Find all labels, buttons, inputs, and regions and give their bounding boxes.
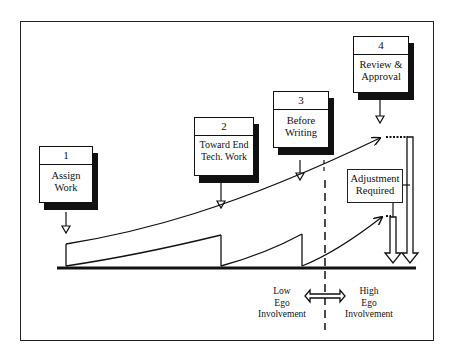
stage-3-label-line1: Before <box>287 115 316 126</box>
stage-4-number: 4 <box>354 37 408 55</box>
stage-2-label-line1: Toward End <box>199 139 248 150</box>
stage-1-label-line1: Assign <box>51 170 80 181</box>
stage-2-number: 2 <box>195 118 253 136</box>
stage-1-box: 1 Assign Work <box>39 146 93 203</box>
ego-involvement-diagram: 1 Assign Work 2 Toward End Tech. Work 3 … <box>0 0 456 361</box>
adjustment-down-arrow-icon <box>385 217 401 263</box>
late-growth-arrow <box>302 217 382 266</box>
high-ego-label: High Ego Involvement <box>342 286 396 321</box>
stage-1-label-line2: Work <box>54 182 77 193</box>
stage-4-label-line1: Review & <box>360 59 403 70</box>
stage-1-pointer-icon <box>62 226 70 233</box>
stage-4-label-line2: Approval <box>361 71 401 82</box>
stage-4-box: 4 Review & Approval <box>353 36 409 93</box>
stage-1-number: 1 <box>40 147 92 165</box>
stage-3-label-line2: Writing <box>285 127 317 138</box>
adjustment-required-box: Adjustment Required <box>347 169 403 203</box>
stage-4-pointer-icon <box>376 116 384 123</box>
review-down-arrow-icon <box>402 137 418 263</box>
stage-3-number: 3 <box>274 92 328 110</box>
adjustment-line1: Adjustment <box>351 173 400 184</box>
low-ego-label: Low Ego Involvement <box>256 286 308 321</box>
stage-2-label-line2: Tech. Work <box>201 151 247 162</box>
stage-3-box: 3 Before Writing <box>273 91 329 148</box>
adjustment-line2: Required <box>356 185 395 196</box>
stage-2-box: 2 Toward End Tech. Work <box>194 117 254 176</box>
